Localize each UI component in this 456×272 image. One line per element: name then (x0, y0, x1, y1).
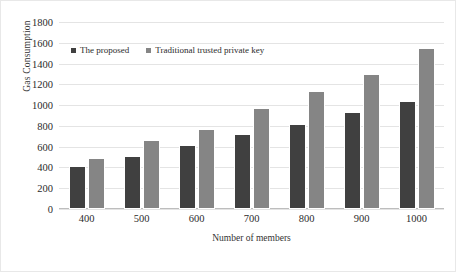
gridline (59, 209, 444, 210)
bar (198, 129, 215, 209)
bar (289, 124, 306, 209)
y-tick-label: 1000 (7, 100, 53, 111)
legend-swatch-icon (71, 48, 76, 53)
y-tick-label: 1400 (7, 58, 53, 69)
x-tick-label: 800 (283, 213, 331, 224)
x-tick-label: 700 (228, 213, 276, 224)
bar (418, 48, 435, 209)
bar-group (344, 22, 380, 209)
x-tick-label: 900 (338, 213, 386, 224)
legend-swatch-icon (146, 48, 151, 53)
legend-label: Traditional trusted private key (155, 45, 264, 55)
bar (124, 156, 141, 210)
chart-legend: The proposedTraditional trusted private … (71, 45, 264, 55)
bar (88, 158, 105, 209)
bar (69, 166, 86, 209)
y-tick-label: 800 (7, 120, 53, 131)
bar (253, 108, 270, 209)
x-axis-tick-labels: 4005006007008009001000 (59, 213, 444, 224)
legend-item[interactable]: The proposed (71, 45, 129, 55)
y-tick-label: 0 (7, 204, 53, 215)
bar (179, 145, 196, 209)
x-tick-label: 1000 (393, 213, 441, 224)
y-tick-label: 600 (7, 141, 53, 152)
x-axis-title: Number of members (59, 233, 444, 243)
y-axis-tick-labels: 180016001400120010008006004002000 (1, 22, 53, 209)
y-tick-label: 200 (7, 183, 53, 194)
x-tick-label: 600 (173, 213, 221, 224)
bar (399, 101, 416, 209)
bar-chart-figure: Gas Consumption 180016001400120010008006… (0, 0, 456, 272)
x-tick-label: 500 (118, 213, 166, 224)
y-tick-label: 1600 (7, 37, 53, 48)
legend-label: The proposed (80, 45, 129, 55)
y-tick-label: 1200 (7, 79, 53, 90)
bar-group (289, 22, 325, 209)
legend-item[interactable]: Traditional trusted private key (146, 45, 264, 55)
bar (143, 140, 160, 209)
bar (234, 134, 251, 209)
bar (363, 74, 380, 209)
bar (344, 112, 361, 209)
y-tick-label: 1800 (7, 17, 53, 28)
x-tick-label: 400 (63, 213, 111, 224)
bar (308, 91, 325, 209)
y-tick-label: 400 (7, 162, 53, 173)
bar-group (399, 22, 435, 209)
